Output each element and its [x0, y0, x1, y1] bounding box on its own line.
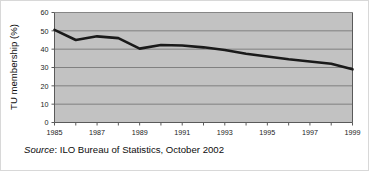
- y-tick-label: 10: [41, 100, 49, 109]
- figure-container: 0102030405060 19851987198919911993199519…: [0, 0, 369, 171]
- y-tick-label: 60: [41, 8, 49, 17]
- y-tick-label: 50: [41, 27, 49, 36]
- y-tick-label: 0: [45, 118, 49, 127]
- x-tick-label: 1985: [47, 128, 63, 137]
- x-tick-label: 1995: [259, 128, 275, 137]
- source-text: : ILO Bureau of Statistics, October 2002: [54, 144, 224, 155]
- x-tick-label-group: 19851987198919911993199519971999: [47, 128, 361, 137]
- y-tick-label: 20: [41, 82, 49, 91]
- x-tick-label: 1993: [217, 128, 233, 137]
- x-tick-label: 1987: [89, 128, 105, 137]
- x-tick-label: 1989: [132, 128, 148, 137]
- x-tick-label: 1999: [345, 128, 361, 137]
- line-chart: 0102030405060 19851987198919911993199519…: [1, 1, 369, 141]
- x-tick-label: 1991: [174, 128, 190, 137]
- y-tick-label: 40: [41, 45, 49, 54]
- source-label: Source: [24, 144, 54, 155]
- x-tick-label: 1997: [302, 128, 318, 137]
- y-tick-label: 30: [41, 63, 49, 72]
- source-caption: Source: ILO Bureau of Statistics, Octobe…: [24, 143, 224, 156]
- y-tick-label-group: 0102030405060: [41, 8, 49, 127]
- chart-plot-region: 0102030405060 19851987198919911993199519…: [1, 1, 369, 141]
- y-axis-title: TU membership (%): [8, 24, 19, 110]
